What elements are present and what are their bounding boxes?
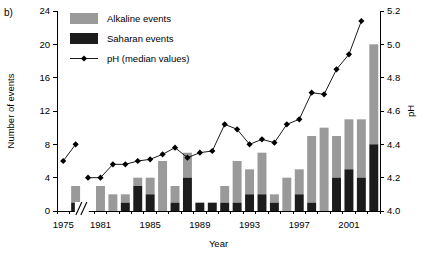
bar-alkaline [270,194,279,202]
ph-data-point [197,150,203,156]
bar-alkaline [307,136,316,203]
right-axis-tick-label: 4.6 [387,105,400,116]
bottom-axis-tick-label: 1989 [189,219,210,230]
axis-break-marker [75,202,89,215]
bar-alkaline [158,161,167,211]
bar-group [233,161,242,211]
bar-group [357,119,366,211]
bar-saharan [332,178,341,211]
bar-saharan [133,186,142,211]
ph-line-layer [60,18,364,181]
figure-panel-b: b) 048121620244.04.24.44.64.85.05.219751… [0,0,426,268]
legend-label-alkaline: Alkaline events [107,13,171,24]
bar-alkaline [71,186,80,203]
ph-data-point [147,156,153,162]
bar-saharan [195,203,204,211]
bar-saharan [270,203,279,211]
bar-group [220,186,229,211]
ph-line [63,144,75,161]
ph-data-point [209,148,215,154]
legend-layer: Alkaline eventsSaharan eventspH (median … [70,13,189,64]
ph-data-point [122,161,128,167]
left-axis-tick-label: 12 [39,105,50,116]
bottom-axis-tick-label: 1981 [90,219,111,230]
left-axis-tick-label: 16 [39,72,50,83]
bar-group [208,203,217,211]
ph-data-point [321,91,327,97]
bar-saharan [307,203,316,211]
ph-data-point [135,158,141,164]
left-axis-tick-label: 0 [45,205,50,216]
bar-alkaline [108,194,117,211]
bottom-axis-tick-label: 1997 [289,219,310,230]
bar-alkaline [96,186,105,211]
bottom-axis-tick-label: 1975 [53,219,74,230]
bar-group [270,194,279,211]
bar-group [258,153,267,211]
bar-group [195,203,204,211]
bar-group [171,186,180,211]
legend-item: Alkaline events [70,13,171,24]
bar-saharan [258,194,267,211]
bar-alkaline [133,178,142,186]
left-axis-tick-label: 20 [39,39,50,50]
bar-alkaline [320,128,329,211]
right-axis-tick-label: 4.8 [387,72,400,83]
right-axis-title: pH [405,105,416,117]
bottom-axis-tick-label: 1993 [239,219,260,230]
bar-alkaline [121,194,130,202]
legend-item: pH (median values) [70,53,189,64]
left-axis-tick-label: 8 [45,139,50,150]
bar-saharan [357,178,366,211]
bar-group [307,136,316,211]
bar-group [133,178,142,211]
bottom-axis-title: Year [209,238,228,249]
bar-alkaline [295,169,304,194]
bar-group [344,119,353,211]
bar-group [183,153,192,211]
legend-label-saharan: Saharan events [107,33,174,44]
ph-data-point [309,90,315,96]
ph-data-point [284,121,290,127]
bar-saharan [220,203,229,211]
bars-layer [71,44,378,211]
bar-group [282,178,291,211]
bar-saharan [183,178,192,211]
bar-group [369,44,378,211]
left-axis-tick-label: 24 [39,5,50,16]
bar-alkaline [220,186,229,203]
ph-data-point [159,151,165,157]
bar-group [146,178,155,211]
bar-saharan [245,194,254,211]
ph-data-point [271,140,277,146]
bar-group [295,169,304,211]
bar-saharan [146,194,155,211]
bar-saharan [208,203,217,211]
legend-label-ph: pH (median values) [107,53,189,64]
right-axis-tick-label: 4.2 [387,172,400,183]
bar-alkaline [332,136,341,178]
bar-alkaline [282,178,291,211]
bar-saharan [121,203,130,211]
ph-data-point [259,136,265,142]
bar-alkaline [233,161,242,203]
bottom-axis-tick-label: 1985 [140,219,161,230]
bar-alkaline [146,178,155,195]
bar-saharan [344,169,353,211]
bar-saharan [171,203,180,211]
bar-alkaline [258,153,267,195]
legend-swatch-alkaline [70,13,98,24]
bar-alkaline [357,119,366,177]
bar-alkaline [171,186,180,203]
right-axis-tick-label: 5.2 [387,5,400,16]
bar-group [320,128,329,211]
bar-group [96,186,105,211]
left-axis-tick-label: 4 [45,172,50,183]
bar-alkaline [369,44,378,144]
panel-label: b) [4,7,13,18]
right-axis-tick-label: 4.4 [387,139,400,150]
bar-group [245,169,254,211]
bar-group [108,194,117,211]
legend-swatch-saharan [70,33,98,44]
left-axis-title: Number of events [5,73,16,148]
